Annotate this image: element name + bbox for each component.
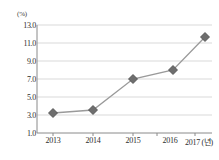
x-tick-2017: 2017 (년) xyxy=(185,136,213,147)
line-chart: (%) 13.0 11.0 9.0 7.0 5.0 3.0 1.0 xyxy=(0,0,219,160)
x-tick-2016: 2016 xyxy=(163,136,178,145)
x-tick-2013: 2013 xyxy=(46,136,61,145)
x-tick-2015: 2015 xyxy=(126,136,141,145)
x-tick-2014: 2014 xyxy=(86,136,101,145)
x-axis-tick-labels: 2013 2014 2015 2016 2017 (년) xyxy=(0,0,219,160)
